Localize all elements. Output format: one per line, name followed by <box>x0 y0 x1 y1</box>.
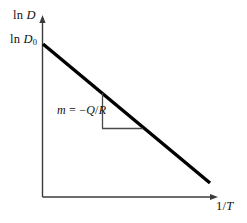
y-axis-label: ln D <box>13 9 36 22</box>
y-intercept-label-var: D <box>23 32 32 46</box>
arrhenius-plot-figure: ln D ln D0 1/T m = −Q/R <box>0 0 247 223</box>
x-axis-label-var: T <box>226 199 233 213</box>
y-intercept-label-fn: ln <box>10 32 20 46</box>
slope-annotation-equals: = <box>69 103 76 117</box>
slope-annotation-r: R <box>99 103 107 117</box>
slope-annotation: m = −Q/R <box>57 104 106 116</box>
slope-annotation-q: Q <box>86 103 95 117</box>
y-axis-label-fn: ln <box>13 8 23 22</box>
y-intercept-label: ln D0 <box>10 33 37 46</box>
y-axis-arrow-icon <box>39 15 45 23</box>
x-axis-label: 1/T <box>216 200 233 213</box>
slope-annotation-m: m <box>57 103 66 117</box>
x-axis-label-num: 1/ <box>216 199 226 213</box>
y-axis-label-var: D <box>26 8 35 22</box>
y-intercept-label-subscript: 0 <box>33 37 37 47</box>
